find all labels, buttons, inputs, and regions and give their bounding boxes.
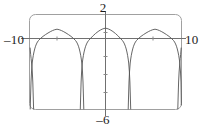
y-max-label: 2: [0, 1, 206, 14]
x-min-label: –10: [4, 33, 24, 46]
graphing-window-plot: 2 –6 –10 10: [0, 0, 206, 131]
y-min-label: –6: [0, 113, 206, 126]
x-max-label: 10: [185, 33, 198, 46]
